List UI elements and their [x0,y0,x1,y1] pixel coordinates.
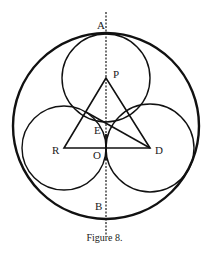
geometry-figure [0,0,209,254]
label-A: A [97,20,105,31]
figure-caption: Figure 8. [0,232,209,243]
label-B: B [95,201,102,212]
label-O: O [93,150,101,161]
label-D: D [155,145,163,156]
label-R: R [52,145,59,156]
label-P: P [113,69,119,80]
label-E: E [94,125,101,136]
